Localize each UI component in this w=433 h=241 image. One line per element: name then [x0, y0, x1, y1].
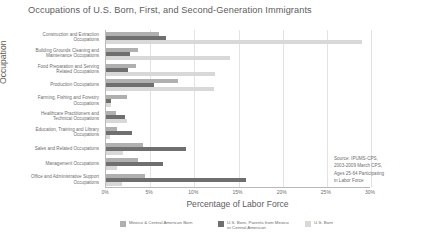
chart-root: Occupations of U.S. Born, First, and Sec…	[0, 0, 433, 241]
x-axis-tick: 25%	[321, 189, 331, 195]
x-axis-tick: 10%	[188, 189, 198, 195]
source-note: Source: IPUMS-CPS, 2003-2009 March CPS, …	[334, 155, 384, 185]
legend-item: U.S. Born	[305, 220, 355, 227]
legend-swatch	[120, 221, 126, 227]
bar	[106, 40, 362, 44]
x-axis-title: Percentage of Labor Force	[105, 199, 370, 209]
bar	[106, 178, 246, 182]
legend-item: Mexico & Central American Born	[120, 220, 215, 227]
legend-swatch	[218, 221, 224, 227]
bar	[106, 87, 214, 91]
bar-group	[106, 111, 371, 123]
bar-group	[106, 79, 371, 91]
y-axis-tick: Office and Administrative Support Occupa…	[23, 175, 99, 186]
y-axis-tick: Education, Training and Library Occupati…	[23, 127, 99, 138]
y-axis-tick: Management Occupations	[23, 162, 99, 168]
y-axis-tick: Sales and Related Occupations	[23, 146, 99, 152]
chart-legend: Mexico & Central American BornU.S. Born,…	[120, 220, 420, 238]
bar-group	[106, 127, 371, 139]
y-axis-tick: Food Preparation and Serving Related Occ…	[23, 64, 99, 75]
bar	[106, 56, 230, 60]
bar-group	[106, 158, 371, 170]
legend-label: Mexico & Central American Born	[129, 220, 192, 225]
x-axis-tick: 30%	[365, 189, 375, 195]
bar	[106, 72, 215, 76]
legend-label: U.S. Born	[314, 220, 333, 225]
bar	[106, 166, 117, 170]
bar	[106, 119, 127, 123]
bar-group	[106, 64, 371, 76]
x-axis-tick: 20%	[277, 189, 287, 195]
x-axis-tick: 0%	[101, 189, 108, 195]
x-axis-tick: 5%	[146, 189, 153, 195]
chart-title: Occupations of U.S. Born, First, and Sec…	[28, 5, 312, 15]
y-axis-tick: Healthcare Practitioners and Technical O…	[23, 111, 99, 122]
y-axis-tick-labels: Construction and Extraction OccupationsB…	[0, 30, 103, 188]
bar-group	[106, 48, 371, 60]
y-axis-tick: Farming, Fishing and Forestry Occupation…	[23, 96, 99, 107]
bar-group	[106, 143, 371, 155]
legend-label: U.S. Born, Parents from Mexico or Centra…	[227, 220, 289, 230]
bar-group	[106, 32, 371, 44]
y-axis-tick: Building Grounds Cleaning and Maintenanc…	[23, 48, 99, 59]
bar	[106, 182, 122, 186]
y-axis-tick: Construction and Extraction Occupations	[23, 32, 99, 43]
bar	[106, 151, 123, 155]
bar	[106, 103, 111, 107]
x-axis-tick: 15%	[232, 189, 242, 195]
y-axis-tick: Production Occupations	[23, 83, 99, 89]
bar	[106, 135, 110, 139]
bar-group	[106, 174, 371, 186]
bar-group	[106, 95, 371, 107]
legend-swatch	[305, 221, 311, 227]
legend-item: U.S. Born, Parents from Mexico or Centra…	[218, 220, 298, 230]
plot-area	[105, 30, 370, 188]
